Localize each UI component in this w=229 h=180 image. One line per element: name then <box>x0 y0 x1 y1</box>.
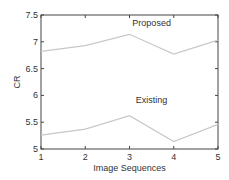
plot-lines <box>41 34 218 141</box>
series-line-existing <box>41 116 218 142</box>
plot-frame <box>41 15 218 149</box>
x-tick-label: 3 <box>127 152 132 162</box>
y-tick-label: 6 <box>33 90 38 100</box>
annotation-existing: Existing <box>136 95 168 105</box>
series-line-proposed <box>41 34 218 54</box>
x-tick-label: 5 <box>215 152 220 162</box>
y-tick-label: 7 <box>33 37 38 47</box>
y-axis-label: CR <box>12 75 22 88</box>
y-tick-label: 5.5 <box>25 117 38 127</box>
x-tick-label: 4 <box>171 152 176 162</box>
annotation-proposed: Proposed <box>132 18 171 28</box>
y-tick-label: 6.5 <box>25 64 38 74</box>
x-axis-label: Image Sequences <box>93 163 166 173</box>
x-tick-label: 1 <box>38 152 43 162</box>
plot-axes: 1234555.566.577.5 <box>25 10 220 162</box>
y-tick-label: 7.5 <box>25 10 38 20</box>
y-tick-label: 5 <box>33 144 38 154</box>
x-tick-label: 2 <box>83 152 88 162</box>
line-chart: 1234555.566.577.5 ProposedExistingImage … <box>0 0 229 180</box>
